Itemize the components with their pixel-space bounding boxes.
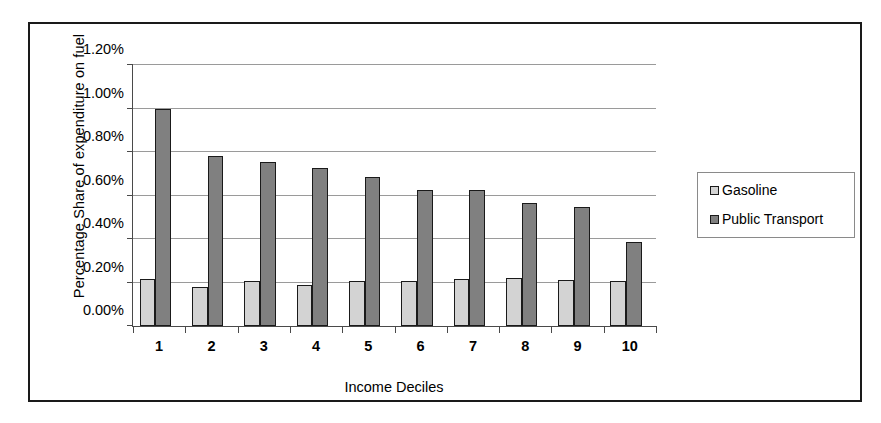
x-tick-label-10: 10 [622, 338, 638, 354]
legend-swatch-public-transport-icon [710, 215, 719, 224]
x-axis-title: Income Deciles [132, 379, 656, 395]
bar-public-transport-decile-10[interactable] [626, 242, 642, 326]
x-tick-mark [133, 326, 134, 333]
bar-group [447, 65, 499, 326]
bar-gasoline-decile-3[interactable] [244, 281, 260, 326]
bar-public-transport-decile-6[interactable] [417, 190, 433, 326]
legend-label: Public Transport [722, 211, 823, 227]
x-tick-mark [290, 326, 291, 333]
bar-group [395, 65, 447, 326]
bar-gasoline-decile-2[interactable] [192, 287, 208, 326]
bar-group [551, 65, 603, 326]
bar-gasoline-decile-7[interactable] [454, 279, 470, 326]
x-tick-label-7: 7 [469, 338, 477, 354]
y-tick-label: 1.20% [83, 41, 124, 57]
bar-gasoline-decile-1[interactable] [140, 279, 156, 326]
legend-entry-gasoline[interactable]: Gasoline [710, 182, 844, 198]
x-tick-mark [551, 326, 552, 333]
x-tick-mark [238, 326, 239, 333]
x-tick-mark [185, 326, 186, 333]
x-tick-label-2: 2 [207, 338, 215, 354]
x-tick-mark [447, 326, 448, 333]
bar-gasoline-decile-6[interactable] [401, 281, 417, 326]
bars-layer [133, 65, 656, 326]
y-tick-label: 0.40% [83, 215, 124, 231]
bar-group [185, 65, 237, 326]
bar-group [238, 65, 290, 326]
bar-public-transport-decile-5[interactable] [365, 177, 381, 326]
bar-public-transport-decile-2[interactable] [208, 156, 224, 326]
bar-group [342, 65, 394, 326]
bar-public-transport-decile-7[interactable] [469, 190, 485, 326]
legend-label: Gasoline [722, 182, 777, 198]
plot-area: 0.00%0.20%0.40%0.60%0.80%1.00%1.20% 1234… [132, 65, 656, 327]
bar-gasoline-decile-4[interactable] [297, 285, 313, 326]
y-tick-label: 1.00% [83, 85, 124, 101]
x-tick-mark [604, 326, 605, 333]
bar-group [499, 65, 551, 326]
x-tick-mark [656, 326, 657, 333]
x-tick-label-4: 4 [312, 338, 320, 354]
chart-legend: GasolinePublic Transport [697, 172, 855, 238]
chart-figure: Percentage Share of expenditure on fuel … [28, 22, 862, 402]
x-tick-mark [499, 326, 500, 333]
bar-public-transport-decile-9[interactable] [574, 207, 590, 326]
bar-public-transport-decile-4[interactable] [312, 168, 328, 326]
y-tick-label: 0.20% [83, 259, 124, 275]
x-tick-label-6: 6 [417, 338, 425, 354]
x-tick-label-3: 3 [260, 338, 268, 354]
bar-gasoline-decile-9[interactable] [558, 280, 574, 326]
x-tick-mark [342, 326, 343, 333]
legend-swatch-gasoline-icon [710, 186, 719, 195]
y-tick-label: 0.60% [83, 172, 124, 188]
y-tick-label: 0.80% [83, 128, 124, 144]
y-tick-label: 0.00% [83, 302, 124, 318]
bar-group [290, 65, 342, 326]
bar-public-transport-decile-1[interactable] [155, 109, 171, 327]
legend-entry-public-transport[interactable]: Public Transport [710, 211, 844, 227]
bar-group [133, 65, 185, 326]
bar-gasoline-decile-5[interactable] [349, 281, 365, 326]
bar-gasoline-decile-10[interactable] [610, 281, 626, 326]
bar-public-transport-decile-8[interactable] [522, 203, 538, 326]
x-tick-label-5: 5 [364, 338, 372, 354]
x-tick-label-1: 1 [155, 338, 163, 354]
bar-gasoline-decile-8[interactable] [506, 278, 522, 326]
x-tick-label-9: 9 [574, 338, 582, 354]
bar-group [604, 65, 656, 326]
x-tick-mark [395, 326, 396, 333]
x-tick-label-8: 8 [521, 338, 529, 354]
bar-public-transport-decile-3[interactable] [260, 162, 276, 326]
